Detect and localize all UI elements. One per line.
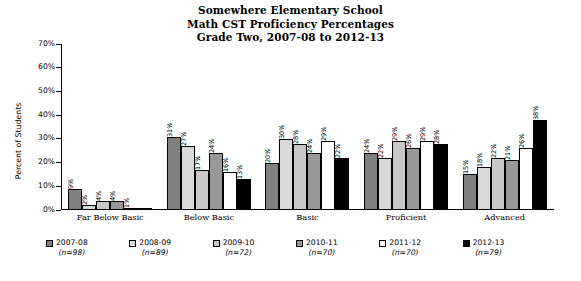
chart-title-line-3: Grade Two, 2007-08 to 2012-13 [0,31,581,45]
bar-group-bars: 24%22%29%26%29%28% [357,44,456,210]
bar[interactable]: 38% [533,120,547,210]
bar-slot: 24% [364,44,378,210]
bar-value-label: 29% [321,127,328,141]
x-axis-category-label: Below Basic [160,212,259,222]
legend-year: 2008-09 [139,238,171,247]
legend-sample-size: (n=89) [139,248,171,258]
bar-group: 24%22%29%26%29%28% [357,44,456,210]
x-axis-category-labels: Far Below BasicBelow BasicBasicProficien… [61,212,554,222]
bar-slot: 4% [96,44,110,210]
bar[interactable]: 13% [237,179,251,210]
y-axis-tick-label: 30% [23,134,55,142]
bar-slot: 29% [321,44,335,210]
bar[interactable]: 22% [335,158,349,210]
legend-item[interactable]: 2007-08(n=98) [46,238,129,257]
y-axis-tick-label: 10% [23,182,55,190]
bar[interactable]: 28% [293,144,307,210]
bar-value-label: 26% [519,134,526,148]
legend-swatch [463,240,470,247]
bar-value-label: 38% [533,106,540,120]
bar-value-label: 15% [463,160,470,174]
legend-sample-size: (n=70) [389,248,421,258]
chart-title-line-1: Somewhere Elementary School [0,4,581,18]
bar[interactable]: 30% [279,139,293,210]
bar-slot: 15% [463,44,477,210]
bar-value-label: 13% [237,165,244,179]
legend-item[interactable]: 2008-09(n=89) [129,238,212,257]
bar-value-label: 30% [279,125,286,139]
bar-group-bars: 31%27%17%24%16%13% [160,44,259,210]
bar-slot: 29% [392,44,406,210]
bar-slot: 21% [505,44,519,210]
bar-chart: Somewhere Elementary School Math CST Pro… [0,0,581,281]
chart-legend: 2007-08(n=98)2008-09(n=89)2009-10(n=72)2… [46,238,546,257]
bar[interactable]: 31% [167,137,181,211]
bar-value-label: 9% [68,178,75,188]
bar-slot [138,44,152,210]
bar-slot: 4% [110,44,124,210]
legend-label: 2011-12(n=70) [389,238,421,257]
bar-slot: 2% [82,44,96,210]
y-axis-tick-label: 50% [23,87,55,95]
bar-group-bars: 9%2%4%4%1% [61,44,160,210]
bar-group: 20%30%28%24%29%22% [258,44,357,210]
bar[interactable]: 24% [364,153,378,210]
bar-value-label: 2% [82,195,89,205]
bar-value-label: 22% [491,143,498,157]
bar-slot: 13% [237,44,251,210]
bar[interactable]: 22% [378,158,392,210]
bar[interactable]: 20% [265,163,279,210]
bar-value-label: 29% [392,127,399,141]
legend-label: 2010-11(n=70) [306,238,338,257]
y-axis-tick-label: 70% [23,40,55,48]
bar[interactable]: 17% [195,170,209,210]
bar-slot: 28% [434,44,448,210]
legend-item[interactable]: 2012-13(n=79) [463,238,546,257]
bar[interactable]: 24% [209,153,223,210]
bar[interactable]: 24% [307,153,321,210]
bar-value-label: 22% [378,143,385,157]
legend-item[interactable]: 2010-11(n=70) [296,238,379,257]
legend-label: 2012-13(n=79) [473,238,505,257]
bar[interactable]: 29% [392,141,406,210]
legend-item[interactable]: 2009-10(n=72) [213,238,296,257]
chart-title-line-2: Math CST Proficiency Percentages [0,18,581,32]
legend-year: 2009-10 [223,238,255,247]
x-axis-category-label: Advanced [455,212,554,222]
bar[interactable]: 1% [124,208,138,210]
x-axis-category-label: Basic [258,212,357,222]
bar-value-label: 16% [223,158,230,172]
bar[interactable]: 4% [96,201,110,210]
chart-title: Somewhere Elementary School Math CST Pro… [0,4,581,45]
bar[interactable]: 22% [491,158,505,210]
bar[interactable]: 27% [181,146,195,210]
bar-value-label: 4% [96,190,103,200]
bar-value-label: 17% [195,155,202,169]
bar-slot: 9% [68,44,82,210]
bar-value-label: 1% [124,197,131,207]
bar-value-label: 21% [505,146,512,160]
bar[interactable] [138,208,152,210]
bar-value-label: 26% [406,134,413,148]
bar[interactable]: 2% [82,205,96,210]
bar[interactable]: 18% [477,167,491,210]
bar[interactable]: 26% [519,148,533,210]
bar[interactable]: 21% [505,160,519,210]
bar[interactable]: 28% [434,144,448,210]
bar[interactable]: 16% [223,172,237,210]
legend-sample-size: (n=70) [306,248,338,258]
bar-group-bars: 15%18%22%21%26%38% [455,44,554,210]
bar[interactable]: 26% [406,148,420,210]
bar-value-label: 28% [434,129,441,143]
legend-label: 2009-10(n=72) [223,238,255,257]
bar-value-label: 4% [110,190,117,200]
bar-value-label: 29% [420,127,427,141]
bar[interactable]: 15% [463,174,477,210]
bar-slot: 27% [181,44,195,210]
bar-group: 15%18%22%21%26%38% [455,44,554,210]
bar[interactable]: 29% [420,141,434,210]
legend-year: 2007-08 [56,238,88,247]
bar-slot: 24% [209,44,223,210]
bar-slot: 30% [279,44,293,210]
legend-item[interactable]: 2011-12(n=70) [379,238,462,257]
